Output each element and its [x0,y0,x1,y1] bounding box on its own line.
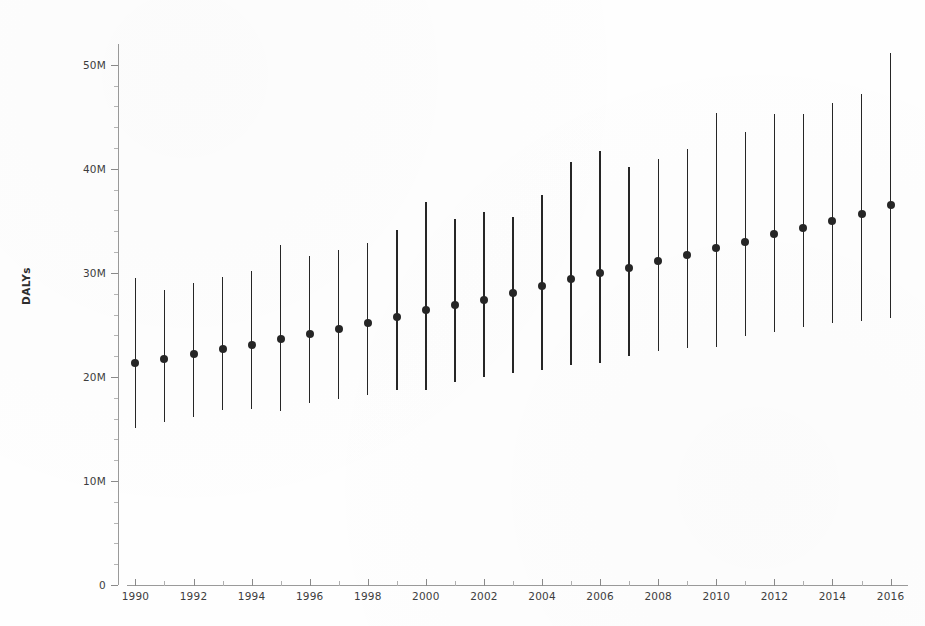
y-tick-mark [111,169,118,170]
x-tick-label: 1998 [344,590,392,602]
y-tick-mark [111,273,118,274]
error-bar [716,113,717,347]
y-axis-title: DALYs [20,267,32,305]
data-point-marker [712,244,720,252]
data-point-marker [828,217,836,225]
caption-bleed [300,616,910,626]
x-tick-mark [484,579,485,586]
data-point-marker [451,301,459,309]
y-minor-tick [114,148,118,149]
y-tick-label: 20M [70,371,106,383]
error-bar [425,202,426,390]
x-minor-tick [513,581,514,586]
y-minor-tick [114,335,118,336]
x-tick-label: 2006 [576,590,624,602]
data-point-marker [538,282,546,290]
x-tick-mark [774,579,775,586]
data-point-marker [393,313,401,321]
y-minor-tick [114,398,118,399]
error-bar [832,103,833,323]
x-tick-mark [252,579,253,586]
y-axis-spine [118,44,119,585]
x-tick-label: 2000 [402,590,450,602]
data-point-marker [335,325,343,333]
x-tick-label: 2004 [518,590,566,602]
x-minor-tick [455,581,456,586]
x-minor-tick [339,581,340,586]
y-tick-label: 30M [70,267,106,279]
data-point-marker [219,345,227,353]
y-minor-tick [114,543,118,544]
x-tick-label: 2012 [750,590,798,602]
y-minor-tick [114,419,118,420]
x-minor-tick [281,581,282,586]
y-minor-tick [114,315,118,316]
error-bar [599,151,600,363]
x-tick-label: 1990 [111,590,159,602]
error-bar [745,132,746,336]
y-tick-label: 0 [70,579,106,591]
x-tick-label: 2002 [460,590,508,602]
error-bar [658,159,659,350]
data-point-marker [248,341,256,349]
data-point-marker [887,201,895,209]
x-minor-tick [164,581,165,586]
data-point-marker [799,224,807,232]
y-tick-mark [111,481,118,482]
x-axis-spine [127,585,908,586]
y-tick-label: 40M [70,163,106,175]
x-minor-tick [629,581,630,586]
data-point-marker [741,238,749,246]
data-point-marker [131,359,139,367]
x-tick-mark [310,579,311,586]
x-tick-label: 1994 [228,590,276,602]
y-minor-tick [114,439,118,440]
y-tick-mark [111,377,118,378]
error-bar [251,271,252,409]
x-tick-label: 1992 [170,590,218,602]
data-point-marker [683,251,691,259]
data-point-marker [364,319,372,327]
error-bar [803,114,804,327]
data-point-marker [770,230,778,238]
data-point-marker [422,306,430,314]
y-minor-tick [114,210,118,211]
data-point-marker [625,264,633,272]
x-tick-mark [368,579,369,586]
error-bar [483,212,484,377]
x-tick-mark [832,579,833,586]
x-minor-tick [397,581,398,586]
x-minor-tick [803,581,804,586]
y-minor-tick [114,564,118,565]
x-tick-label: 1996 [286,590,334,602]
x-minor-tick [687,581,688,586]
error-bar [135,278,136,428]
x-tick-label: 2016 [867,590,915,602]
figure-canvas: DALYs 010M20M30M40M50M 19901992199419961… [0,0,925,626]
x-tick-mark [542,579,543,586]
error-bar [280,245,281,411]
y-minor-tick [114,356,118,357]
x-minor-tick [862,581,863,586]
data-point-marker [277,335,285,343]
x-tick-mark [891,579,892,586]
y-minor-tick [114,502,118,503]
y-tick-label: 10M [70,475,106,487]
x-tick-mark [716,579,717,586]
data-point-marker [654,257,662,265]
x-tick-mark [135,579,136,586]
data-point-marker [190,350,198,358]
y-minor-tick [114,252,118,253]
x-minor-tick [571,581,572,586]
y-tick-mark [111,585,118,586]
data-point-marker [480,296,488,304]
error-bar [861,94,862,321]
y-tick-label: 50M [70,59,106,71]
x-tick-mark [194,579,195,586]
data-point-marker [596,269,604,277]
x-minor-tick [745,581,746,586]
x-minor-tick [223,581,224,586]
error-bar [687,149,688,348]
y-minor-tick [114,460,118,461]
y-minor-tick [114,127,118,128]
